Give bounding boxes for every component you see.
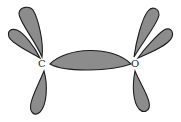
carbon-label: C: [38, 58, 46, 69]
orbital-diagram: C O: [0, 0, 181, 122]
carbon-lower-lobe: [31, 71, 47, 114]
oxygen-lower-lobe: [133, 71, 149, 111]
sigma-bond-lobe: [50, 50, 131, 70]
oxygen-label: O: [131, 58, 139, 69]
